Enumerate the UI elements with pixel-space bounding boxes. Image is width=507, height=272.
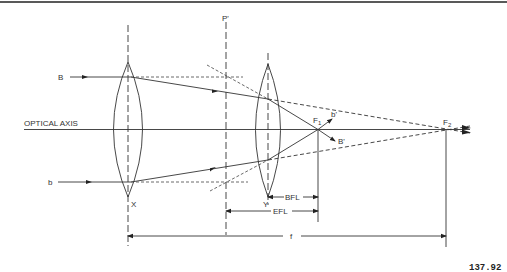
- focus-2-label: F2: [443, 118, 452, 128]
- efl-label: EFL: [273, 207, 288, 216]
- ray-b-dashed-to-f2: [268, 99, 470, 133]
- arrow-icon: [86, 180, 92, 184]
- lens-1-label: X: [131, 200, 137, 209]
- optical-diagram: OPTICAL AXIS X P' Y B B' b b' F1 F2: [0, 0, 507, 272]
- arrow-icon: [462, 130, 471, 135]
- bfl-label: BFL: [285, 193, 300, 202]
- ray-b-lower-dashed-to-f2: [268, 126, 470, 160]
- arrow-icon: [212, 90, 218, 94]
- ray-b-upper-to-f1: [268, 99, 318, 130]
- f-label: f: [290, 232, 293, 241]
- ray-b-prime-label: B': [338, 137, 345, 146]
- optical-axis-label: OPTICAL AXIS: [24, 119, 78, 128]
- figure-number: 137.92: [469, 263, 501, 272]
- ray-b-lower-to-f1: [268, 130, 318, 161]
- focus-1-label: F1: [313, 116, 322, 126]
- arrow-icon: [210, 167, 216, 172]
- lens-2-label: Y: [263, 200, 269, 209]
- principal-plane-label: P': [222, 14, 229, 23]
- ray-b-prime: [318, 130, 335, 142]
- ray-b-upper-label: B: [58, 73, 63, 82]
- ray-b-lower-prime-label: b': [331, 110, 337, 119]
- ray-b-lower-label: b: [48, 178, 53, 187]
- arrow-icon: [82, 75, 88, 79]
